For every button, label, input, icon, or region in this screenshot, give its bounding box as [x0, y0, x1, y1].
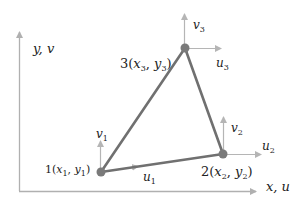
node-3-v-label: v3: [193, 19, 205, 34]
node-1-v-label: v1: [96, 128, 108, 143]
node-3-u-label: u3: [216, 57, 229, 72]
node-2-dot: [219, 150, 228, 159]
node-2-v-label: v2: [231, 122, 243, 137]
node-3-coordinate-label: 3(x3, y3): [120, 57, 172, 73]
node-3-dot: [181, 44, 190, 53]
node-2-u-label: u2: [262, 140, 275, 155]
x-axis-label: x, u: [266, 180, 290, 193]
triangle-element-diagram: y, v x, u 3(x3, y3) v3 u3 1(x1, y1) v1 u…: [0, 0, 304, 206]
y-axis-label: y, v: [33, 42, 54, 55]
node-1-coordinate-label: 1(x1, y1): [45, 164, 90, 178]
node-1-dot: [97, 168, 106, 177]
node-2-coordinate-label: 2(x2, y2): [201, 165, 253, 181]
node-1-u-label: u1: [143, 171, 156, 186]
